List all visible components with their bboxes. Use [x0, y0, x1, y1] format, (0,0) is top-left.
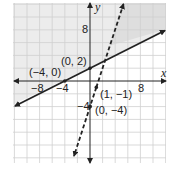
annotation-1-neg1: (1, −1): [100, 88, 132, 100]
tick-y-neg4: −4: [77, 100, 90, 112]
annotation-neg4-0: (−4, 0): [29, 66, 61, 78]
tick-x-neg8: −8: [31, 82, 44, 94]
annotation-0-2: (0, 2): [61, 55, 87, 67]
point-0-2: [88, 66, 92, 70]
y-axis-label: y: [94, 0, 101, 14]
tick-y-8: 8: [82, 23, 88, 35]
tick-x-8: 8: [138, 82, 144, 94]
tick-x-neg4: −4: [56, 82, 69, 94]
x-axis-label: x: [160, 66, 167, 80]
annotation-0-neg4: (0, −4): [95, 104, 127, 116]
coordinate-plane: y x −8 −4 8 8 −4 (−4, 0) (0, 2) (1, −1) …: [0, 0, 174, 176]
point-1-neg1: [95, 86, 99, 90]
